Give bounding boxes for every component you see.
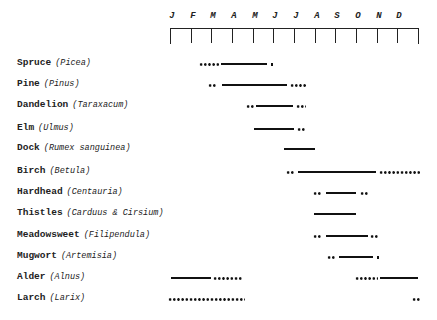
month-label: J xyxy=(265,11,285,21)
extended-period-dots xyxy=(213,277,243,280)
month-label: M xyxy=(245,11,265,21)
plant-latin-name: (Carduus & Cirsium) xyxy=(67,208,164,218)
plant-label: Meadowsweet(Filipendula) xyxy=(17,229,150,240)
pollen-calendar-chart: JFMAMJJASOND Spruce(Picea)Pine(Pinus)Dan… xyxy=(0,0,437,320)
extended-period-dots xyxy=(286,171,295,174)
month-tick xyxy=(211,28,212,43)
main-period-line xyxy=(222,84,287,86)
month-tick xyxy=(418,28,419,44)
month-label: F xyxy=(183,11,203,21)
plant-latin-name: (Picea) xyxy=(55,58,91,68)
month-tick xyxy=(356,28,357,43)
plant-latin-name: (Centauria) xyxy=(67,187,123,197)
plant-common-name: Elm xyxy=(17,122,34,133)
month-tick xyxy=(315,28,316,43)
month-tick xyxy=(335,28,336,43)
extended-period-dots xyxy=(246,105,254,108)
month-label: N xyxy=(369,11,389,21)
plant-latin-name: (Artemisia) xyxy=(61,251,117,261)
plant-latin-name: (Rumex sanguinea) xyxy=(44,143,131,153)
extended-period-dots xyxy=(355,277,378,280)
extended-period-dots xyxy=(290,84,306,87)
extended-period-dots xyxy=(313,235,322,238)
plant-label: Elm(Ulmus) xyxy=(17,122,74,133)
month-tick xyxy=(294,28,295,43)
extended-period-dots xyxy=(168,298,245,301)
extended-period-dots xyxy=(327,256,336,259)
month-label: J xyxy=(286,11,306,21)
main-period-line xyxy=(254,128,294,130)
plant-common-name: Dock xyxy=(17,142,40,153)
main-period-line xyxy=(298,171,376,173)
extended-period-dots xyxy=(199,63,219,66)
plant-latin-name: (Alnus) xyxy=(50,272,86,282)
main-period-line xyxy=(284,148,315,150)
plant-label: Alder(Alnus) xyxy=(17,271,85,282)
plant-common-name: Mugwort xyxy=(17,250,57,261)
plant-common-name: Birch xyxy=(17,165,46,176)
month-label: D xyxy=(389,11,409,21)
extended-period-dots xyxy=(360,192,368,195)
plant-latin-name: (Betula) xyxy=(50,166,91,176)
plant-common-name: Larch xyxy=(17,292,46,303)
month-tick xyxy=(232,28,233,43)
main-period-line xyxy=(171,277,211,279)
plant-latin-name: (Pinus) xyxy=(44,79,80,89)
month-label: O xyxy=(348,11,368,21)
month-tick xyxy=(273,28,274,43)
plant-common-name: Meadowsweet xyxy=(17,229,80,240)
main-period-line xyxy=(380,277,418,279)
month-label: J xyxy=(162,11,182,21)
plant-label: Hardhead(Centauria) xyxy=(17,186,123,197)
plant-latin-name: (Larix) xyxy=(50,293,86,303)
extended-period-dots xyxy=(379,171,421,174)
extended-period-dots xyxy=(412,298,420,301)
extended-period-dots xyxy=(297,128,306,131)
month-label: M xyxy=(203,11,223,21)
plant-latin-name: (Taraxacum) xyxy=(72,100,128,110)
main-period-line xyxy=(314,213,356,215)
month-label: A xyxy=(307,11,327,21)
main-period-line xyxy=(339,256,373,258)
month-tick xyxy=(377,28,378,43)
month-tick xyxy=(191,28,192,43)
plant-label: Spruce(Picea) xyxy=(17,57,91,68)
extended-period-dots xyxy=(370,235,378,238)
plant-label: Pine(Pinus) xyxy=(17,78,80,89)
main-period-line xyxy=(326,235,368,237)
month-tick xyxy=(170,28,171,44)
month-tick xyxy=(253,28,254,43)
extended-period-dots xyxy=(313,192,322,195)
extended-period-dots xyxy=(270,63,274,66)
plant-label: Birch(Betula) xyxy=(17,165,90,176)
plant-common-name: Thistles xyxy=(17,207,63,218)
plant-common-name: Pine xyxy=(17,78,40,89)
plant-label: Mugwort(Artemisia) xyxy=(17,250,117,261)
plant-common-name: Dandelion xyxy=(17,99,68,110)
extended-period-dots xyxy=(208,84,217,87)
month-tick xyxy=(397,28,398,43)
plant-common-name: Alder xyxy=(17,271,46,282)
main-period-line xyxy=(326,192,356,194)
plant-label: Dock(Rumex sanguinea) xyxy=(17,142,131,153)
plant-label: Larch(Larix) xyxy=(17,292,85,303)
plant-label: Dandelion(Taraxacum) xyxy=(17,99,128,110)
extended-period-dots xyxy=(296,105,306,108)
main-period-line xyxy=(256,105,293,107)
main-period-line xyxy=(221,63,267,65)
plant-common-name: Spruce xyxy=(17,57,51,68)
plant-common-name: Hardhead xyxy=(17,186,63,197)
plant-latin-name: (Ulmus) xyxy=(38,123,74,133)
plant-label: Thistles(Carduus & Cirsium) xyxy=(17,207,164,218)
extended-period-dots xyxy=(376,256,379,259)
plant-latin-name: (Filipendula) xyxy=(84,230,150,240)
month-label: S xyxy=(327,11,347,21)
month-label: A xyxy=(224,11,244,21)
